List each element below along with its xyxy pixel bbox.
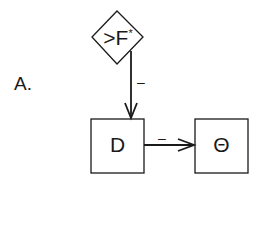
panel-label: A. [14,73,32,95]
arrow-feedback-to-d [125,51,137,118]
diagram-canvas [0,0,276,231]
feedback-node-label: >F* [98,26,138,50]
feedback-label: >F [103,26,128,49]
theta-node-label: Θ [195,133,248,157]
feedback-superscript: * [128,27,132,39]
edge-sign-feedback-d: – [137,74,145,90]
arrow-d-to-theta [144,139,194,151]
edge-sign-d-theta: – [158,130,166,146]
d-node-label: D [91,133,144,157]
